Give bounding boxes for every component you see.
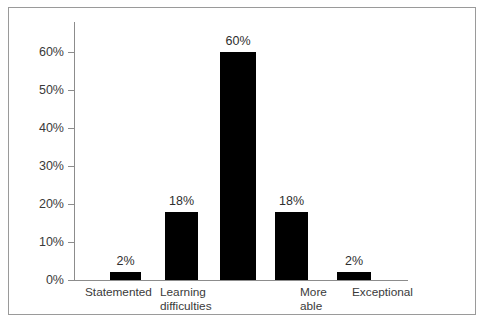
y-axis-tick-label: 30% — [10, 160, 64, 173]
y-axis-tick-mark — [68, 90, 74, 91]
y-axis-tick-label: 0% — [10, 274, 64, 287]
bar — [337, 272, 371, 280]
x-axis-line — [74, 280, 408, 281]
chart-page: 0%10%20%30%40%50%60% 2%18%60%18%2% State… — [0, 0, 485, 325]
x-axis-category-label: Learning difficulties — [160, 285, 212, 314]
y-axis-tick-label: 20% — [10, 198, 64, 211]
bar-chart-plot-area: 0%10%20%30%40%50%60% 2%18%60%18%2% State… — [0, 0, 485, 325]
x-axis-category-label: More able — [300, 285, 327, 314]
bar — [220, 52, 256, 280]
bar-value-label: 18% — [263, 195, 320, 208]
bar — [110, 272, 141, 280]
bar — [275, 212, 308, 280]
y-axis-tick-label: 50% — [10, 84, 64, 97]
bar — [165, 212, 198, 280]
x-axis-category-label: Statemented — [85, 285, 152, 299]
y-axis-tick-mark — [68, 166, 74, 167]
y-axis-tick-mark — [68, 242, 74, 243]
bar-value-label: 18% — [153, 195, 210, 208]
x-axis-category-label: Exceptional — [352, 285, 413, 299]
bar-value-label: 60% — [208, 35, 268, 48]
y-axis-tick-label: 60% — [10, 46, 64, 59]
y-axis-tick-label: 40% — [10, 122, 64, 135]
y-axis-tick-mark — [68, 52, 74, 53]
y-axis-tick-mark — [68, 128, 74, 129]
y-axis-tick-label: 10% — [10, 236, 64, 249]
y-axis-tick-mark — [68, 204, 74, 205]
y-axis-tick-mark — [68, 280, 74, 281]
bar-value-label: 2% — [98, 255, 153, 268]
y-axis-line — [74, 22, 75, 281]
bar-value-label: 2% — [325, 255, 383, 268]
